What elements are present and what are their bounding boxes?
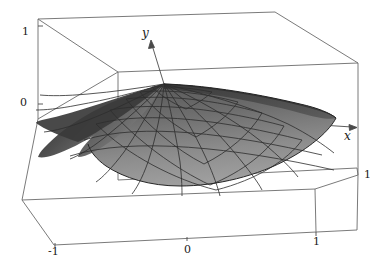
- x-axis-label: x: [344, 130, 351, 142]
- y-axis-arrow-line: [152, 45, 164, 84]
- x-tick-label-neg1: -1: [48, 246, 59, 257]
- surface-plot-graphic: [0, 0, 391, 273]
- figure-canvas: 1 0 -1 0 1 1 x y: [0, 0, 391, 273]
- y-axis-arrowhead: [149, 40, 155, 49]
- y-axis-label: y: [142, 27, 149, 39]
- z-tick-label-1: 1: [22, 26, 29, 37]
- x-tick-label-0: 0: [184, 244, 191, 255]
- x-tick-label-1: 1: [313, 236, 320, 247]
- z-tick-label-0: 0: [20, 97, 27, 108]
- y-tick-label-1: 1: [364, 169, 371, 180]
- surface-mesh: [36, 84, 336, 196]
